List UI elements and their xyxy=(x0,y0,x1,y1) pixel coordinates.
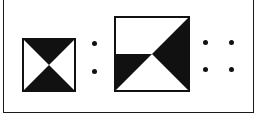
proportion-dot-bottom-left xyxy=(203,67,208,72)
analogy-puzzle-image: Geometric analogy: A is to B as xyxy=(0,0,267,123)
proportion-dots-marker xyxy=(203,40,243,74)
proportion-dot-bottom-right xyxy=(229,67,234,72)
figure-b-right-triangle xyxy=(152,18,188,90)
figure-a-pattern xyxy=(24,40,74,90)
figure-b-large-square xyxy=(114,16,190,92)
colon-dot-top xyxy=(92,41,97,46)
figure-a-small-square xyxy=(22,38,76,92)
analogy-colon-separator xyxy=(91,41,101,89)
figure-b-lower-left-triangle xyxy=(116,54,152,90)
figure-a-upper-triangle xyxy=(24,40,74,65)
proportion-dot-top-right xyxy=(229,40,234,45)
figure-a-lower-triangle xyxy=(24,65,74,90)
figure-b-pattern xyxy=(116,18,188,90)
figure-title: Geometric analogy: A is to B as xyxy=(0,0,1,1)
colon-dot-bottom xyxy=(92,69,97,74)
proportion-dot-top-left xyxy=(203,40,208,45)
